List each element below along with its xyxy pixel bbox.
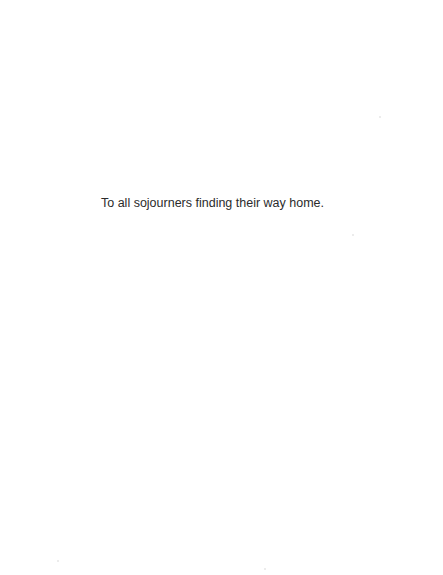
scan-speck <box>379 116 381 118</box>
dedication-text: To all sojourners finding their way home… <box>0 194 425 212</box>
scan-speck <box>352 234 354 236</box>
book-page: To all sojourners finding their way home… <box>0 0 443 575</box>
scan-speck <box>57 560 59 562</box>
scan-speck <box>264 568 266 570</box>
